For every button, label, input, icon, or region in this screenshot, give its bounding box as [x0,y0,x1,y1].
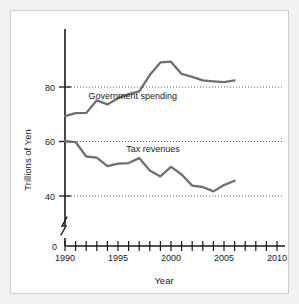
x-axis-title: Year [154,275,173,286]
x-tick-label-2000: 2000 [161,253,181,263]
x-tick-label-1990: 1990 [55,253,75,263]
y-tick-label-60: 60 [45,137,55,147]
y-tick-label-80: 80 [45,83,55,93]
x-tick-label-2010: 2010 [267,253,287,263]
series-label-tax-revenues: Tax revenues [126,144,180,154]
chart-figure: 80 60 40 0 1990 1995 2000 2005 2010 Year… [0,0,299,304]
y-tick-label-0: 0 [52,242,57,252]
x-tick-label-1995: 1995 [108,253,128,263]
series-line-government-spending [65,62,235,117]
series-label-government-spending: Government spending [89,91,178,101]
x-tick-label-2005: 2005 [214,253,234,263]
x-tick-marks [65,241,277,251]
gridlines [65,87,283,196]
y-axis-title: Trillions of Yen [22,129,33,190]
y-tick-label-40: 40 [45,192,55,202]
axis-break-icon [61,217,67,235]
line-chart: 80 60 40 0 1990 1995 2000 2005 2010 Year… [0,0,299,304]
